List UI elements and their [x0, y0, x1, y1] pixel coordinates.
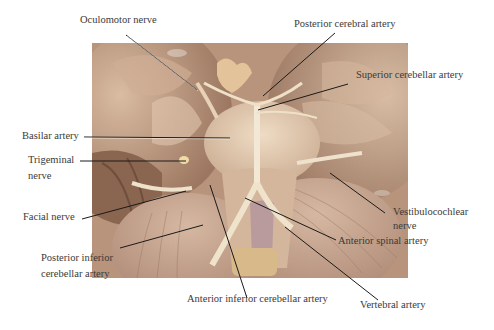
label-anterior-spinal-artery: Anterior spinal artery — [338, 234, 428, 247]
label-trigeminal-nerve-line2: nerve — [28, 169, 51, 182]
label-pica-line2: cerebellar artery — [41, 267, 110, 280]
label-vestibulocochlear-line1: Vestibulocochlear — [393, 205, 468, 218]
label-vestibulocochlear-line2: nerve — [393, 219, 416, 232]
label-oculomotor-nerve: Oculomotor nerve — [80, 13, 157, 26]
label-vertebral-artery: Vertebral artery — [360, 298, 426, 311]
label-basilar-artery: Basilar artery — [22, 129, 79, 142]
label-facial-nerve: Facial nerve — [23, 210, 75, 223]
labeled-anatomy-figure: Oculomotor nerve Posterior cerebral arte… — [0, 0, 494, 330]
label-posterior-cerebral-artery: Posterior cerebral artery — [294, 17, 395, 30]
label-superior-cerebellar-artery: Superior cerebellar artery — [356, 68, 463, 81]
label-trigeminal-nerve-line1: Trigeminal — [28, 153, 74, 166]
label-pica-line1: Posterior inferior — [41, 251, 113, 264]
label-anterior-inferior-cerebellar-artery: Anterior inferior cerebellar artery — [187, 292, 328, 305]
